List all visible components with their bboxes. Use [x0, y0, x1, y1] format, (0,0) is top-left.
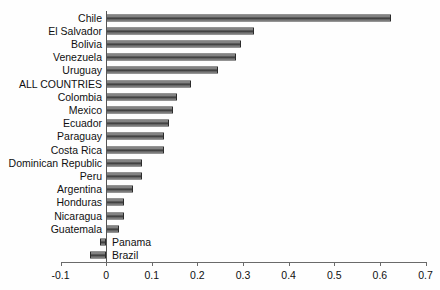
bar: [106, 120, 169, 127]
x-tick-mark: [106, 262, 107, 266]
bar-row: El Salvador: [61, 24, 426, 37]
x-tick-label: 0.3: [236, 269, 251, 281]
bar-row: Guatemala: [61, 222, 426, 235]
bar: [106, 212, 124, 219]
x-tick-mark: [197, 262, 198, 266]
category-label: El Salvador: [48, 25, 106, 36]
category-label: Chile: [78, 12, 106, 23]
bar-row: Bolivia: [61, 37, 426, 50]
category-label: Honduras: [56, 197, 106, 208]
bar-row: Paraguay: [61, 130, 426, 143]
bar-row: Brazil: [61, 249, 426, 262]
bar: [106, 199, 124, 206]
x-tick-mark: [426, 262, 427, 266]
bar-row: Costa Rica: [61, 143, 426, 156]
category-label: Ecuador: [63, 118, 106, 129]
bar-row: Nicaragua: [61, 209, 426, 222]
bar: [106, 41, 241, 48]
bar-row: ALL COUNTRIES: [61, 77, 426, 90]
x-tick-label: 0.4: [281, 269, 296, 281]
bar: [106, 80, 191, 87]
x-tick-label: 0.6: [373, 269, 388, 281]
zero-value-axis: [106, 11, 107, 262]
category-label: Dominican Republic: [9, 157, 106, 168]
category-label: Argentina: [57, 184, 106, 195]
bar-row: Panama: [61, 235, 426, 248]
bar: [106, 14, 391, 21]
x-tick-mark: [243, 262, 244, 266]
bar-row: Honduras: [61, 196, 426, 209]
category-label: Costa Rica: [51, 144, 106, 155]
category-label: Uruguay: [62, 65, 106, 76]
x-tick-label: 0.2: [190, 269, 205, 281]
x-tick-label: 0.5: [327, 269, 342, 281]
bar-row: Chile: [61, 11, 426, 24]
x-tick-mark: [289, 262, 290, 266]
category-label: Paraguay: [57, 131, 106, 142]
plot-area: ChileEl SalvadorBoliviaVenezuelaUruguayA…: [61, 11, 426, 262]
category-label: Nicaragua: [54, 210, 106, 221]
bar-chart: ChileEl SalvadorBoliviaVenezuelaUruguayA…: [0, 0, 440, 290]
bar: [106, 54, 236, 61]
bar-row: Dominican Republic: [61, 156, 426, 169]
x-tick-label: 0.7: [418, 269, 433, 281]
category-label: Peru: [80, 171, 106, 182]
bar: [106, 133, 163, 140]
bar-row: Peru: [61, 169, 426, 182]
x-tick-label: 0: [103, 269, 109, 281]
bar-rows: ChileEl SalvadorBoliviaVenezuelaUruguayA…: [61, 11, 426, 262]
x-tick-mark: [61, 262, 62, 266]
category-label: Colombia: [58, 91, 106, 102]
bar: [106, 107, 173, 114]
bar-row: Venezuela: [61, 51, 426, 64]
category-label: Bolivia: [71, 39, 106, 50]
category-label: Mexico: [69, 105, 106, 116]
category-label: Brazil: [112, 250, 138, 261]
bar-row: Mexico: [61, 103, 426, 116]
bar: [90, 252, 106, 259]
x-tick-mark: [334, 262, 335, 266]
bar: [106, 93, 177, 100]
category-label: Panama: [112, 237, 151, 248]
bar: [106, 173, 142, 180]
x-tick-label: 0.1: [144, 269, 159, 281]
bar-row: Uruguay: [61, 64, 426, 77]
category-label: Venezuela: [53, 52, 106, 63]
bar: [106, 67, 218, 74]
bar: [106, 27, 254, 34]
bar-row: Ecuador: [61, 117, 426, 130]
category-label: ALL COUNTRIES: [19, 78, 106, 89]
bar-row: Colombia: [61, 90, 426, 103]
x-tick-label: -0.1: [51, 269, 69, 281]
category-label: Guatemala: [51, 223, 106, 234]
x-tick-mark: [380, 262, 381, 266]
bar: [106, 186, 133, 193]
bar: [106, 225, 119, 232]
x-tick-mark: [152, 262, 153, 266]
bar: [106, 159, 142, 166]
bar: [106, 146, 163, 153]
bar-row: Argentina: [61, 183, 426, 196]
